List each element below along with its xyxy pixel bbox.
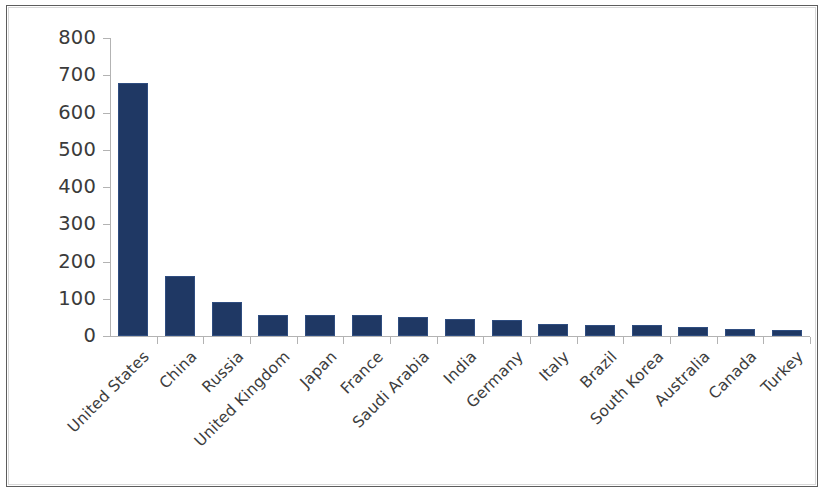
y-axis-tick-label: 100 [40,289,96,309]
x-axis-tick [530,337,531,344]
y-axis-tick-label-wrap: 700 [34,65,96,79]
x-axis-tick [343,337,344,344]
x-axis-tick [157,337,158,344]
y-axis-tick-label-wrap: 100 [34,289,96,303]
y-axis-tick-label-wrap: 0 [34,326,96,340]
x-axis-tick [577,337,578,344]
bar [632,325,662,336]
y-axis-tick-label-wrap: 300 [34,214,96,228]
y-axis-tick-label-wrap: 500 [34,140,96,154]
y-axis-tick [103,150,110,151]
bar [305,315,335,336]
x-axis-tick [203,337,204,344]
bar [212,302,242,336]
y-axis-tick [103,38,110,39]
bar [585,325,615,336]
x-axis-category-label: China [157,349,200,392]
y-axis-tick-label-wrap: 600 [34,103,96,117]
x-axis-category-label: India [441,349,480,388]
y-axis-tick-label-wrap: 400 [34,177,96,191]
x-axis-tick [250,337,251,344]
bar [165,276,195,336]
y-axis-tick-label: 0 [40,326,96,346]
bar [352,315,382,336]
bar-chart: 0100200300400500600700800 United StatesC… [0,0,826,496]
bar [725,329,755,336]
bar [118,83,148,336]
x-axis-tick [437,337,438,344]
y-axis-tick-label: 700 [40,65,96,85]
y-axis-tick-label-wrap: 200 [34,252,96,266]
screenshot-root: 0100200300400500600700800 United StatesC… [0,0,826,496]
y-axis-tick [103,262,110,263]
bar [492,320,522,336]
bar [772,330,802,336]
bar [398,317,428,336]
x-axis-category-label: Japan [298,349,340,391]
x-axis-tick [763,337,764,344]
y-axis-tick-label: 800 [40,28,96,48]
y-axis-tick [103,187,110,188]
bar [678,327,708,336]
y-axis-tick [103,299,110,300]
y-axis-tick-label: 200 [40,252,96,272]
y-axis-tick-label: 600 [40,103,96,123]
x-axis-category-label: Brazil [578,349,620,391]
bar [445,319,475,336]
x-axis-tick [670,337,671,344]
x-axis-tick [297,337,298,344]
x-axis-tick [623,337,624,344]
x-axis-line [110,336,810,337]
y-axis-tick [103,113,110,114]
y-axis-line [110,38,111,337]
y-axis-tick-label: 300 [40,214,96,234]
x-axis-category-label: Canada [706,349,760,403]
y-axis-tick [103,224,110,225]
y-axis-tick [103,336,110,337]
y-axis-tick-label-wrap: 800 [34,28,96,42]
x-axis-tick [483,337,484,344]
y-axis-tick-label: 500 [40,140,96,160]
x-axis-tick [810,337,811,344]
x-axis-category-label: Turkey [759,349,806,396]
bar [538,324,568,336]
x-axis-category-label: United States [66,349,153,436]
y-axis-tick-label: 400 [40,177,96,197]
y-axis-tick [103,75,110,76]
x-axis-category-label: Italy [538,349,573,384]
bar [258,315,288,336]
x-axis-tick [390,337,391,344]
x-axis-tick [717,337,718,344]
